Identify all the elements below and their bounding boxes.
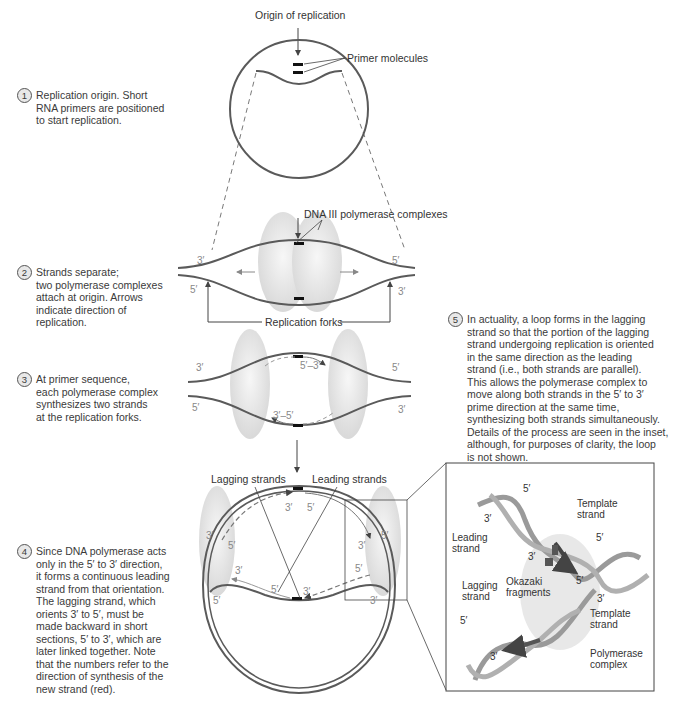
inset-label: 3′ [528, 551, 535, 562]
dna-pol-label: DNA III polymerase complexes [304, 208, 448, 220]
step-4-number: 4 [17, 544, 32, 559]
s3-end: 3′ [196, 362, 203, 373]
inset-label: 5′ [596, 532, 603, 543]
step-2: 2 Strands separate; two polymerase compl… [17, 266, 187, 329]
step-5: 5 In actuality, a loop forms in the lagg… [448, 313, 682, 463]
inset-template-strand-top: Template strand [577, 498, 618, 520]
step-1: 1 Replication origin. Short RNA primers … [17, 89, 187, 127]
forks-label: Replication forks [265, 316, 343, 328]
s2-end: 3′ [398, 286, 405, 297]
primers-label: Primer molecules [347, 52, 428, 64]
step-4: 4 Since DNA polymerase acts only in the … [17, 545, 192, 695]
s4-end: 5′ [228, 540, 235, 551]
step3-fork [188, 329, 411, 439]
s3-end: 3′ [398, 404, 405, 415]
s3-end: 5′ [392, 362, 399, 373]
s4-end: 3′ [235, 565, 242, 576]
s4-end: 3′ [206, 530, 213, 541]
step-3-text: At primer sequence, each polymerase comp… [36, 373, 187, 423]
inset-label: 5′ [523, 483, 530, 494]
leading-label: Leading strands [312, 473, 387, 485]
step-1-text: Replication origin. Short RNA primers ar… [36, 89, 187, 127]
s2-end: 5′ [392, 255, 399, 266]
step-2-text: Strands separate; two polymerase complex… [36, 266, 187, 329]
lagging-label: Lagging strands [211, 473, 286, 485]
s4-end: 5′ [213, 595, 220, 606]
inset-leading-strand: Leading strand [452, 532, 488, 554]
step-1-number: 1 [17, 88, 32, 103]
s2-end: 5′ [190, 284, 197, 295]
inset-template-strand-bottom: Template strand [590, 608, 631, 630]
s4-end: 3′ [303, 586, 310, 597]
s4-end: 3′ [358, 540, 365, 551]
step-4-text: Since DNA polymerase acts only in the 5′… [36, 545, 192, 695]
step2-fork [178, 212, 415, 322]
s3-end: 5′ [192, 402, 199, 413]
s4-end: 5′ [381, 530, 388, 541]
inset-label: 3′ [490, 651, 497, 662]
inset-polymerase-complex: Polymerase complex [590, 648, 643, 670]
inset-lagging-strand: Lagging strand [462, 580, 498, 602]
step-3-number: 3 [17, 372, 32, 387]
s4-end: 3′ [370, 595, 377, 606]
s4-end: 5′ [271, 584, 278, 595]
s4-end: 5′ [307, 502, 314, 513]
s3-direction: 5′–3′ [300, 360, 320, 371]
inset-label: 3′ [597, 593, 604, 604]
s4-end: 5′ [355, 563, 362, 574]
s4-end: 3′ [285, 502, 292, 513]
step-2-number: 2 [17, 265, 32, 280]
inset-label: 3′ [484, 513, 491, 524]
s2-end: 3′ [197, 255, 204, 266]
s3-direction: 3′–5′ [273, 410, 293, 421]
inset-label: 5′ [460, 615, 467, 626]
step-3: 3 At primer sequence, each polymerase co… [17, 373, 187, 423]
origin-label: Origin of replication [255, 9, 345, 21]
inset-okazaki: Okazaki fragments [506, 576, 550, 598]
inset-label: 5′ [576, 575, 583, 586]
step-5-text: In actuality, a loop forms in the laggin… [467, 313, 682, 463]
step-5-number: 5 [448, 312, 463, 327]
